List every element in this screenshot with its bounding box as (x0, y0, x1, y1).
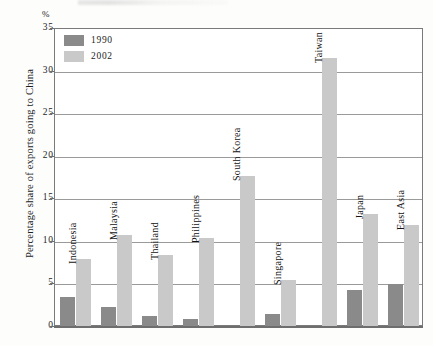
bar-2002-taiwan (322, 58, 337, 326)
bar-group: East Asia (388, 28, 419, 326)
legend-swatch-icon (64, 35, 84, 46)
bar-2002-thailand (158, 255, 173, 326)
bar-group: Singapore (265, 28, 296, 326)
x-axis-category-label: Singapore (272, 242, 283, 285)
bar-2002-philippines (199, 238, 214, 326)
bar-group: Malaysia (101, 28, 132, 326)
bar-group: South Korea (224, 28, 255, 326)
bar-2002-east-asia (404, 225, 419, 326)
bar-2002-singapore (281, 280, 296, 326)
bar-1990-malaysia (101, 307, 116, 326)
legend-label: 1990 (91, 35, 113, 45)
bar-2002-malaysia (117, 235, 132, 326)
chart-legend: 19902002 (64, 33, 144, 65)
bar-group: Indonesia (60, 28, 91, 326)
legend-item: 1990 (64, 33, 144, 47)
bar-1990-indonesia (60, 297, 75, 326)
bar-1990-singapore (265, 314, 280, 326)
bar-1990-east-asia (388, 284, 403, 326)
bar-2002-indonesia (76, 259, 91, 326)
x-axis-category-label: Malaysia (108, 201, 119, 240)
x-axis-category-label: East Asia (395, 189, 406, 229)
bar-1990-japan (347, 290, 362, 326)
bar-group: Japan (347, 28, 378, 326)
legend-swatch-icon (64, 51, 84, 62)
x-axis-category-label: Philippines (190, 195, 201, 243)
bar-1990-thailand (142, 316, 157, 326)
x-axis-category-label: Taiwan (313, 32, 324, 63)
bar-group: Philippines (183, 28, 214, 326)
bar-group: Taiwan (306, 28, 337, 326)
y-axis-ticks: 35302520151050 (0, 0, 54, 346)
x-axis-category-label: Thailand (149, 222, 160, 260)
bar-2002-south-korea (240, 176, 255, 326)
cropped-title-artifact (78, 0, 228, 5)
x-axis-category-label: Japan (354, 195, 365, 219)
legend-label: 2002 (91, 51, 113, 61)
bar-chart-figure: Percentage share of exports going to Chi… (0, 0, 433, 346)
bar-1990-philippines (183, 319, 198, 326)
bars-layer: IndonesiaMalaysiaThailandPhilippinesSout… (54, 28, 423, 326)
bar-2002-japan (363, 214, 378, 326)
x-axis-category-label: South Korea (231, 128, 242, 182)
x-axis-baseline (54, 326, 423, 328)
x-axis-category-label: Indonesia (67, 222, 78, 264)
legend-item: 2002 (64, 49, 144, 63)
bar-group: Thailand (142, 28, 173, 326)
